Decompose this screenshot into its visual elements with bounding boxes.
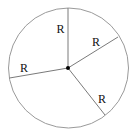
center-point: [66, 66, 70, 70]
radius-left-line: [10, 68, 69, 78]
radius-upper-right-label: R: [92, 35, 100, 49]
radius-lower-right-label: R: [98, 92, 106, 106]
radius-left-label: R: [20, 61, 28, 75]
circle-radii-diagram: RRRR: [0, 0, 133, 136]
radius-labels: RRRR: [20, 22, 106, 106]
radius-top-label: R: [57, 22, 65, 36]
